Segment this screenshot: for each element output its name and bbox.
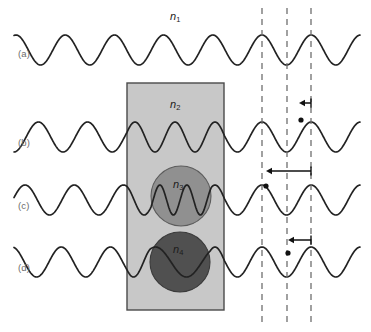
reference-lines-layer (262, 8, 311, 326)
refractive-index-subscript: 1 (176, 15, 180, 24)
phase-shift-arrow-d-head (288, 237, 294, 243)
refractive-index-label-n1: n1 (170, 10, 180, 22)
crest-marker-b (298, 117, 303, 122)
refractive-index-subscript: 2 (176, 103, 180, 112)
crest-marker-d (285, 250, 290, 255)
row-label-d: (d) (18, 262, 30, 273)
row-label-b: (b) (18, 137, 30, 148)
phase-shift-arrow-c (266, 167, 311, 176)
phase-shift-arrow-d (288, 236, 311, 245)
diagram-canvas (0, 0, 371, 332)
row-label-c: (c) (18, 200, 30, 211)
refractive-index-label-n4: n4 (173, 243, 183, 255)
refractive-index-subscript: 4 (179, 248, 183, 257)
refractive-index-label-n2: n2 (170, 98, 180, 110)
refractive-index-subscript: 3 (179, 183, 183, 192)
row-label-a: (a) (18, 48, 30, 59)
phase-shift-arrow-b (299, 99, 311, 108)
crest-marker-c (263, 183, 268, 188)
refractive-index-wave-diagram: (a)(b)(c)(d) n1n2n3n4 (0, 0, 371, 332)
phase-shift-arrow-c-head (266, 168, 272, 174)
wave-curve-a (14, 35, 360, 65)
shift-arrows-layer (266, 99, 311, 245)
phase-shift-arrow-b-head (299, 100, 305, 106)
refractive-index-label-n3: n3 (173, 178, 183, 190)
